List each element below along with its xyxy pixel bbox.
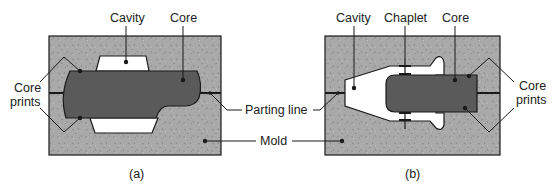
shared-labels: Parting line Mold [203, 91, 344, 148]
label-cavity-b: Cavity [336, 11, 371, 25]
label-core-prints-a-1: Core [14, 81, 41, 95]
caption-b: (b) [405, 167, 420, 181]
label-core-prints-b-1: Core [519, 79, 546, 93]
panel-b: Cavity Chaplet Core Core prints (b) [325, 11, 547, 181]
dot-parting-line-a [208, 91, 212, 95]
label-core-b: Core [442, 11, 469, 25]
label-cavity-a: Cavity [110, 11, 145, 25]
cavity-a-bottom [90, 118, 158, 133]
label-core-a: Core [170, 11, 197, 25]
dot-core-b [453, 78, 457, 82]
dot-cavity-a [124, 60, 128, 64]
dot-core-prints-a-top [78, 69, 82, 73]
dot-core-a [181, 78, 185, 82]
casting-core-diagram: Cavity Core Core prints (a) [0, 0, 556, 190]
dot-core-prints-a-bottom [78, 116, 82, 120]
core-b [386, 75, 477, 112]
panel-a: Cavity Core Core prints (a) [10, 11, 221, 181]
cavity-a-top [96, 56, 149, 71]
caption-a: (a) [129, 167, 144, 181]
label-core-prints-b-2: prints [516, 93, 547, 107]
label-mold: Mold [260, 134, 287, 148]
dot-mold-b [340, 139, 344, 143]
label-chaplet: Chaplet [384, 11, 428, 25]
dot-parting-line-b [336, 91, 340, 95]
dot-core-prints-b-bottom [463, 106, 467, 110]
dot-mold-a [203, 139, 207, 143]
dot-cavity-b [352, 86, 356, 90]
label-parting-line: Parting line [245, 103, 308, 117]
label-core-prints-a-2: prints [10, 95, 41, 109]
dot-core-prints-b-top [467, 74, 471, 78]
